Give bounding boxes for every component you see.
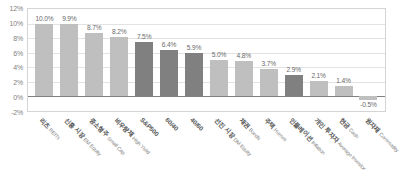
category-label-ko: 40/60: [189, 116, 205, 132]
bar-slot: 8.2%: [107, 9, 132, 111]
x-axis-tick-label: 60/40: [164, 116, 180, 132]
category-slot: S&P500: [131, 114, 156, 194]
bar-slot: 1.4%: [331, 9, 356, 111]
bar[interactable]: [85, 33, 103, 96]
bar[interactable]: [185, 53, 203, 96]
category-label-ko: 60/40: [164, 116, 180, 132]
category-slot: 채권Bonds: [232, 114, 257, 194]
bar-slot: 2.9%: [281, 9, 306, 111]
category-slot: 중소형주Small Cap: [81, 114, 106, 194]
category-slot: 리츠REITs: [31, 114, 56, 194]
x-axis-tick-label: 원자재Commodity: [363, 116, 401, 154]
bar[interactable]: [60, 24, 78, 96]
category-slot: 60/40: [156, 114, 181, 194]
category-slot: 신흥 시장EM Equity: [56, 114, 81, 194]
category-slot: 개인 투자자Average Investor: [307, 114, 332, 194]
bar-slot: 3.7%: [256, 9, 281, 111]
y-axis: 12%10%8%6%4%2%0%-2%: [0, 8, 26, 112]
bar[interactable]: [260, 69, 278, 96]
y-axis-tick-label: 8%: [13, 34, 23, 41]
x-axis-tick-label: 40/60: [189, 116, 205, 132]
bar-slot: 8.7%: [82, 9, 107, 111]
bar-slot: 6.4%: [157, 9, 182, 111]
category-slot: 40/60: [181, 114, 206, 194]
y-axis-tick-label: 4%: [13, 64, 23, 71]
category-slot: 비우량채High Yield: [106, 114, 131, 194]
y-axis-tick-label: 12%: [10, 5, 23, 12]
bar[interactable]: [359, 96, 377, 100]
category-slot: 주택Homes: [257, 114, 282, 194]
category-slot: 현금Cash: [332, 114, 357, 194]
bar-slot: -0.5%: [356, 9, 381, 111]
bar-slot: 5.0%: [206, 9, 231, 111]
bar[interactable]: [110, 37, 128, 97]
category-slot: 원자재Commodity: [357, 114, 382, 194]
bar-slot: 2.1%: [306, 9, 331, 111]
category-label-en: Commodity: [377, 131, 399, 153]
y-axis-tick-label: 2%: [13, 79, 23, 86]
y-axis-tick-label: -2%: [11, 109, 23, 116]
y-axis-tick-label: 0%: [13, 94, 23, 101]
plot-area: 10.0%9.9%8.7%8.2%7.5%6.4%5.9%5.0%4.8%3.7…: [27, 8, 386, 112]
bar[interactable]: [335, 86, 353, 96]
bar-slot: 7.5%: [132, 9, 157, 111]
bar[interactable]: [35, 24, 53, 97]
category-label-ko: 원자재: [364, 117, 381, 134]
bar[interactable]: [135, 42, 153, 97]
bar-slot: 5.9%: [182, 9, 207, 111]
y-axis-tick-label: 10%: [10, 19, 23, 26]
bar[interactable]: [160, 50, 178, 97]
category-slot: 선진 시장DM Equity: [207, 114, 232, 194]
y-axis-tick-label: 6%: [13, 49, 23, 56]
bar[interactable]: [210, 60, 228, 96]
x-axis-category-labels: 리츠REITs신흥 시장EM Equity중소형주Small Cap비우량채Hi…: [27, 114, 386, 194]
bar-slot: 10.0%: [32, 9, 57, 111]
bars-container: 10.0%9.9%8.7%8.2%7.5%6.4%5.9%5.0%4.8%3.7…: [28, 9, 385, 111]
category-slot: 인플레이션Inflation: [282, 114, 307, 194]
bar-value-label: -0.5%: [348, 101, 389, 108]
